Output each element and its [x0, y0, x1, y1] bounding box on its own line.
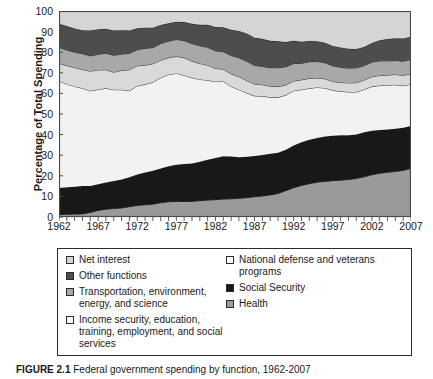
figure-caption: FIGURE 2.1 Federal government spending b… — [16, 364, 426, 376]
x-tick-label: 1982 — [195, 220, 235, 232]
y-tick-label: 10 — [20, 191, 53, 201]
y-tick-label: 50 — [20, 109, 53, 119]
legend-swatch-health — [226, 300, 234, 308]
x-tick-label: 1997 — [313, 220, 353, 232]
x-tick-label: 1977 — [156, 220, 196, 232]
legend-swatch-national-defense-veterans-programs — [226, 256, 234, 264]
y-tick-label: 30 — [20, 150, 53, 160]
legend-label-net-interest: Net interest — [79, 254, 130, 266]
legend-column-left: Net interestOther functionsTransportatio… — [66, 254, 236, 354]
chart-legend: Net interestOther functionsTransportatio… — [57, 248, 412, 356]
legend-column-right: National defense and veterans programsSo… — [226, 254, 406, 314]
plot-area — [59, 11, 411, 217]
legend-label-social-security: Social Security — [239, 282, 305, 294]
x-tick-label: 1962 — [39, 220, 79, 232]
y-axis-tick-labels: 0102030405060708090100 — [20, 11, 53, 217]
x-tick-label: 2007 — [391, 220, 431, 232]
legend-item-health[interactable]: Health — [226, 298, 406, 310]
y-tick-label: 80 — [20, 47, 53, 57]
x-tick-label: 1972 — [117, 220, 157, 232]
y-tick-label: 90 — [20, 27, 53, 37]
figure-caption-text: Federal government spending by function,… — [73, 364, 310, 375]
legend-item-social-security[interactable]: Social Security — [226, 282, 406, 294]
x-tick-label: 1967 — [78, 220, 118, 232]
y-tick-label: 60 — [20, 88, 53, 98]
figure-caption-label: FIGURE 2.1 — [16, 364, 70, 375]
legend-label-transportation-environment-energy-science: Transportation, environment, energy, and… — [79, 286, 236, 310]
x-axis-tick-labels: 1962196719721977198219871992199720022007 — [59, 220, 411, 236]
y-tick-label: 20 — [20, 171, 53, 181]
x-tick-label: 1992 — [274, 220, 314, 232]
stacked-area-chart — [59, 11, 411, 223]
legend-item-other-functions[interactable]: Other functions — [66, 270, 236, 282]
legend-item-transportation-environment-energy-science[interactable]: Transportation, environment, energy, and… — [66, 286, 236, 310]
legend-swatch-net-interest — [66, 256, 74, 264]
legend-swatch-other-functions — [66, 272, 74, 280]
legend-label-other-functions: Other functions — [79, 270, 147, 282]
legend-label-income-security-education-training-employment-social-services: Income security, education, training, em… — [79, 314, 236, 350]
y-tick-label: 40 — [20, 130, 53, 140]
legend-label-health: Health — [239, 298, 268, 310]
y-tick-label: 70 — [20, 68, 53, 78]
legend-swatch-transportation-environment-energy-science — [66, 288, 74, 296]
legend-item-income-security-education-training-employment-social-services[interactable]: Income security, education, training, em… — [66, 314, 236, 350]
legend-item-net-interest[interactable]: Net interest — [66, 254, 236, 266]
legend-item-national-defense-veterans-programs[interactable]: National defense and veterans programs — [226, 254, 406, 278]
y-tick-label: 100 — [20, 6, 53, 16]
legend-swatch-income-security-education-training-employment-social-services — [66, 316, 74, 324]
legend-label-national-defense-veterans-programs: National defense and veterans programs — [239, 254, 406, 278]
x-tick-label: 2002 — [352, 220, 392, 232]
figure-container: Percentage of Total Spending 01020304050… — [0, 0, 433, 379]
x-tick-label: 1987 — [235, 220, 275, 232]
legend-swatch-social-security — [226, 284, 234, 292]
